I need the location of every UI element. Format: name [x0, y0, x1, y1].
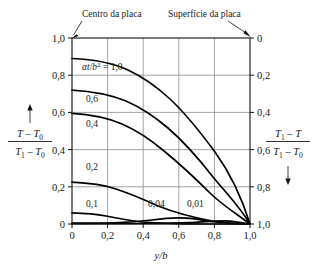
right-tick-label-2: 0,4	[257, 107, 271, 118]
x-tick-label-5: 1,0	[243, 230, 256, 241]
left-tick-label-2: 0,6	[52, 107, 65, 118]
left-tick-label-5: 0	[60, 219, 65, 230]
right-tick-label-1: 0,2	[257, 70, 270, 81]
left-tick-label-1: 0,8	[52, 70, 65, 81]
curve-label-0-04: 0,04	[148, 199, 165, 209]
left-tick-label-4: 0,2	[52, 182, 65, 193]
curve-label-0-2: 0,2	[86, 162, 98, 172]
surface-plate-annotation-label: Superfície da placa	[168, 9, 242, 19]
x-tick-label-4: 0,8	[208, 230, 221, 241]
curve-label-0-01: 0,01	[187, 199, 204, 209]
right-tick-label-5: 1,0	[257, 219, 270, 230]
left-tick-label-3: 0,4	[52, 145, 66, 156]
curve-label-0-4: 0,4	[86, 119, 98, 129]
x-tick-label-2: 0,4	[137, 230, 151, 241]
x-tick-label-0: 0	[69, 230, 74, 241]
right-tick-label-3: 0,6	[257, 145, 270, 156]
x-tick-label-3: 0,6	[172, 230, 185, 241]
right-tick-label-4: 0,8	[257, 182, 270, 193]
center-plate-annotation-label: Centro da placa	[82, 9, 142, 19]
x-tick-label-1: 0,2	[101, 230, 114, 241]
x-axis-title: y/b	[154, 250, 168, 261]
curve-label-0-6: 0,6	[86, 94, 98, 104]
left-tick-label-0: 1,0	[52, 33, 65, 44]
right-tick-label-0: 0	[257, 33, 262, 44]
curve-label-1-0: αt/b2 = 1,0	[82, 61, 123, 72]
heisler-chart-figure: 0 0,2 0,4 0,6 0,8 1,0 1,0 0,8 0,6 0,4 0,…	[0, 0, 316, 266]
curve-label-0-1: 0,1	[86, 199, 98, 209]
